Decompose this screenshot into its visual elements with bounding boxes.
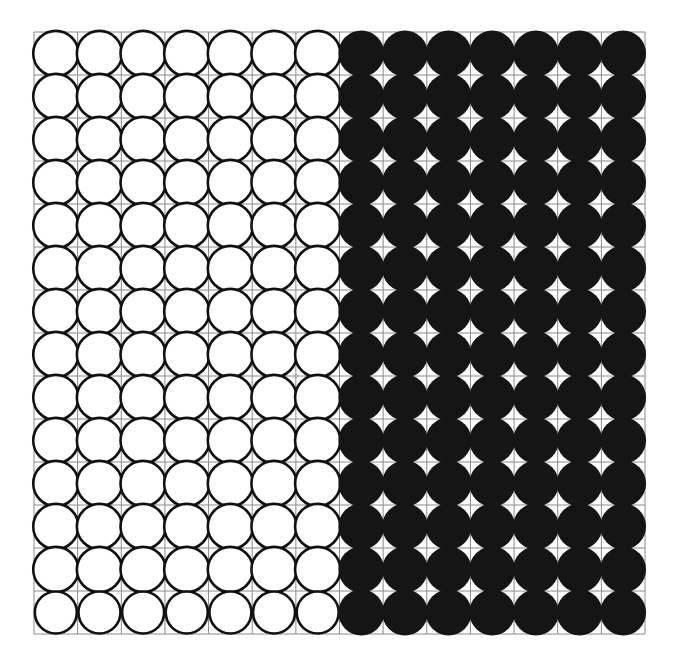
circle-filled <box>426 74 472 120</box>
circle-filled <box>338 289 384 335</box>
circle-filled <box>469 461 515 507</box>
circle-empty <box>77 332 122 377</box>
circle-empty <box>295 332 340 377</box>
circle-empty <box>251 332 296 377</box>
circle-empty <box>209 592 251 634</box>
circle-empty <box>33 375 78 420</box>
circle-empty <box>164 117 209 162</box>
circle-empty <box>121 31 166 76</box>
circle-filled <box>557 246 603 292</box>
circle-empty <box>121 203 166 248</box>
circle-empty <box>164 547 209 592</box>
circle-filled <box>338 74 384 120</box>
circle-filled <box>600 117 646 163</box>
circle-filled <box>338 504 384 550</box>
circle-filled <box>600 590 646 636</box>
circle-filled <box>557 418 603 464</box>
circle-filled <box>469 332 515 378</box>
circle-empty <box>33 418 78 463</box>
circle-empty <box>121 74 166 119</box>
circle-empty <box>295 375 340 420</box>
circle-filled <box>513 461 559 507</box>
circle-empty <box>164 246 209 291</box>
circle-filled <box>426 31 472 77</box>
circle-empty <box>251 246 296 291</box>
circle-empty <box>33 332 78 377</box>
circle-empty <box>77 74 122 119</box>
circle-empty <box>295 31 340 76</box>
circle-filled <box>600 418 646 464</box>
circle-filled <box>469 375 515 421</box>
circle-filled <box>600 332 646 378</box>
circle-empty <box>251 504 296 549</box>
circle-empty <box>251 418 296 463</box>
circle-empty <box>295 117 340 162</box>
circle-empty <box>208 461 253 506</box>
circle-empty <box>77 289 122 334</box>
circle-filled <box>557 117 603 163</box>
circle-empty <box>208 332 253 377</box>
circle-empty <box>164 332 209 377</box>
circle-empty <box>166 592 208 634</box>
circle-empty <box>164 418 209 463</box>
circle-filled <box>426 117 472 163</box>
circle-empty <box>295 289 340 334</box>
circle-empty <box>295 504 340 549</box>
circle-empty <box>295 461 340 506</box>
circle-filled <box>600 203 646 249</box>
circle-filled <box>469 117 515 163</box>
circle-empty <box>77 117 122 162</box>
circle-empty <box>251 547 296 592</box>
circle-empty <box>251 160 296 205</box>
circle-filled <box>338 461 384 507</box>
circle-empty <box>251 117 296 162</box>
circle-filled <box>469 246 515 292</box>
circle-empty <box>33 117 78 162</box>
circle-empty <box>77 461 122 506</box>
circle-filled <box>513 375 559 421</box>
circle-empty <box>295 203 340 248</box>
circle-empty <box>164 461 209 506</box>
circle-filled <box>469 289 515 335</box>
circle-empty <box>33 547 78 592</box>
circle-empty <box>121 332 166 377</box>
circle-filled <box>426 590 472 636</box>
circle-empty <box>121 547 166 592</box>
circle-filled <box>382 117 428 163</box>
circle-empty <box>77 418 122 463</box>
circle-empty <box>164 289 209 334</box>
circle-filled <box>557 504 603 550</box>
circle-empty <box>295 418 340 463</box>
circle-empty <box>77 160 122 205</box>
circle-empty <box>251 289 296 334</box>
circle-empty <box>295 246 340 291</box>
circle-empty <box>208 117 253 162</box>
circle-filled <box>600 31 646 77</box>
circle-empty <box>164 160 209 205</box>
circle-filled <box>382 203 428 249</box>
circle-empty <box>121 375 166 420</box>
circle-filled <box>382 375 428 421</box>
circle-filled <box>426 375 472 421</box>
circle-empty <box>251 203 296 248</box>
circle-filled <box>338 375 384 421</box>
circle-filled <box>426 461 472 507</box>
circle-empty <box>121 461 166 506</box>
circle-filled <box>557 31 603 77</box>
circle-filled <box>338 203 384 249</box>
circle-empty <box>251 74 296 119</box>
circle-empty <box>295 547 340 592</box>
circle-empty <box>78 592 120 634</box>
circle-empty <box>121 504 166 549</box>
circle-filled <box>513 203 559 249</box>
circle-filled <box>600 246 646 292</box>
circle-filled <box>338 590 384 636</box>
circle-filled <box>557 590 603 636</box>
circle-empty <box>121 289 166 334</box>
circle-filled <box>426 160 472 206</box>
circle-empty <box>251 461 296 506</box>
circle-filled <box>382 289 428 335</box>
circle-empty <box>121 117 166 162</box>
circle-filled <box>338 31 384 77</box>
circle-empty <box>77 504 122 549</box>
